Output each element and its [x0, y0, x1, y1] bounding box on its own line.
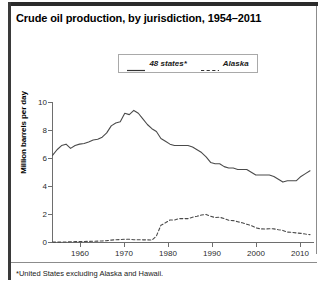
data-line-48-states	[53, 110, 311, 182]
chart-footnote: *United States excluding Alaska and Hawa…	[16, 269, 163, 278]
x-axis	[53, 243, 315, 248]
figure-container: Crude oil production, by jurisdiction, 1…	[0, 0, 324, 284]
y-axis	[48, 102, 53, 243]
chart-plot-area	[0, 0, 324, 284]
data-line-alaska	[53, 214, 311, 242]
